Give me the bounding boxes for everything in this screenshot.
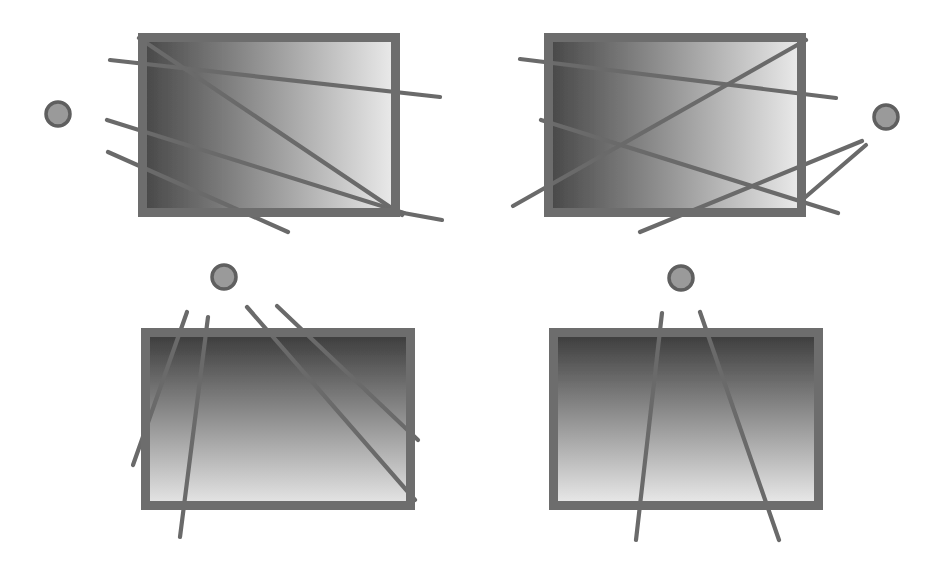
point-source-circle (46, 102, 70, 126)
point-source-circle (874, 105, 898, 129)
panels-root (46, 38, 898, 541)
figure-canvas (0, 0, 946, 566)
bottom-left-panel (133, 265, 418, 537)
slab-interior (558, 337, 814, 501)
point-source-circle (212, 265, 236, 289)
ray-diagram-svg (0, 0, 946, 566)
point-source-circle (669, 266, 693, 290)
top-right-panel (513, 38, 898, 233)
bottom-right-panel (554, 266, 819, 540)
ray-5 (398, 212, 442, 220)
top-left-panel (46, 38, 442, 233)
